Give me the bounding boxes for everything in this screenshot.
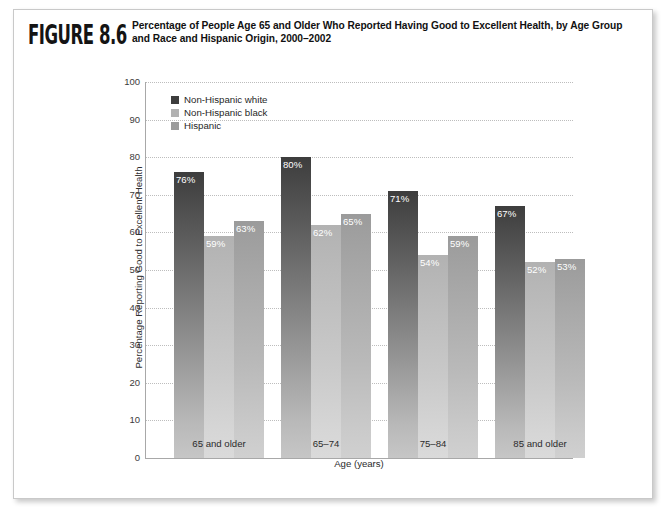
- bar-value-label: 59%: [206, 238, 225, 249]
- x-axis-title: Age (years): [145, 458, 573, 469]
- y-tick-label: 100: [114, 77, 140, 87]
- bar-fill: [174, 172, 204, 458]
- figure-title: Percentage of People Age 65 and Older Wh…: [132, 19, 630, 45]
- y-axis-line: [145, 82, 146, 458]
- figure-number: FIGURE 8.6: [28, 20, 127, 49]
- bar-group: 80%62%65%: [281, 82, 371, 458]
- bar-fill: [341, 214, 371, 458]
- bar-fill: [281, 157, 311, 458]
- plot-area: Non-Hispanic whiteNon-Hispanic blackHisp…: [145, 82, 573, 458]
- y-tick-label: 10: [114, 415, 140, 425]
- y-tick-label: 50: [114, 265, 140, 275]
- y-tick-label: 70: [114, 190, 140, 200]
- chart-area: Percentage Reporting Good to Excellent H…: [14, 54, 654, 500]
- figure-page: FIGURE 8.6 Percentage of People Age 65 a…: [13, 9, 653, 499]
- bar-value-label: 59%: [450, 238, 469, 249]
- bar[interactable]: 52%: [525, 262, 555, 458]
- bar[interactable]: 71%: [388, 191, 418, 458]
- bar[interactable]: 53%: [555, 259, 585, 458]
- y-tick-label: 80: [114, 152, 140, 162]
- bar[interactable]: 80%: [281, 157, 311, 458]
- bar-value-label: 53%: [557, 261, 576, 272]
- y-tick-label: 40: [114, 303, 140, 313]
- bar[interactable]: 54%: [418, 255, 448, 458]
- y-tick-label: 90: [114, 115, 140, 125]
- bar-fill: [311, 225, 341, 458]
- bar-fill: [418, 255, 448, 458]
- bar-fill: [555, 259, 585, 458]
- bar[interactable]: 76%: [174, 172, 204, 458]
- bar-fill: [388, 191, 418, 458]
- bar-value-label: 71%: [390, 193, 409, 204]
- bar-value-label: 76%: [176, 174, 195, 185]
- bar-value-label: 65%: [343, 216, 362, 227]
- bar-value-label: 80%: [283, 159, 302, 170]
- x-tick-label: 85 and older: [475, 438, 605, 449]
- y-tick-label: 60: [114, 227, 140, 237]
- bar-value-label: 54%: [420, 257, 439, 268]
- bar-value-label: 62%: [313, 227, 332, 238]
- figure-header: FIGURE 8.6 Percentage of People Age 65 a…: [14, 10, 654, 54]
- y-tick-label: 30: [114, 340, 140, 350]
- y-axis-title-holder: Percentage Reporting Good to Excellent H…: [92, 102, 106, 432]
- bar-value-label: 63%: [236, 223, 255, 234]
- bar-group: 67%52%53%: [495, 82, 585, 458]
- y-axis-ticks: 0102030405060708090100: [110, 82, 140, 458]
- bar[interactable]: 63%: [234, 221, 264, 458]
- bar-group: 71%54%59%: [388, 82, 478, 458]
- bar-value-label: 67%: [497, 208, 516, 219]
- bar-value-label: 52%: [527, 264, 546, 275]
- bar[interactable]: 59%: [448, 236, 478, 458]
- bar[interactable]: 59%: [204, 236, 234, 458]
- y-tick-label: 20: [114, 378, 140, 388]
- bar[interactable]: 67%: [495, 206, 525, 458]
- bar-fill: [495, 206, 525, 458]
- bar-fill: [448, 236, 478, 458]
- bar-group: 76%59%63%: [174, 82, 264, 458]
- bar[interactable]: 62%: [311, 225, 341, 458]
- bar-fill: [525, 262, 555, 458]
- bar[interactable]: 65%: [341, 214, 371, 458]
- bar-fill: [234, 221, 264, 458]
- y-tick-label: 0: [114, 453, 140, 463]
- bar-fill: [204, 236, 234, 458]
